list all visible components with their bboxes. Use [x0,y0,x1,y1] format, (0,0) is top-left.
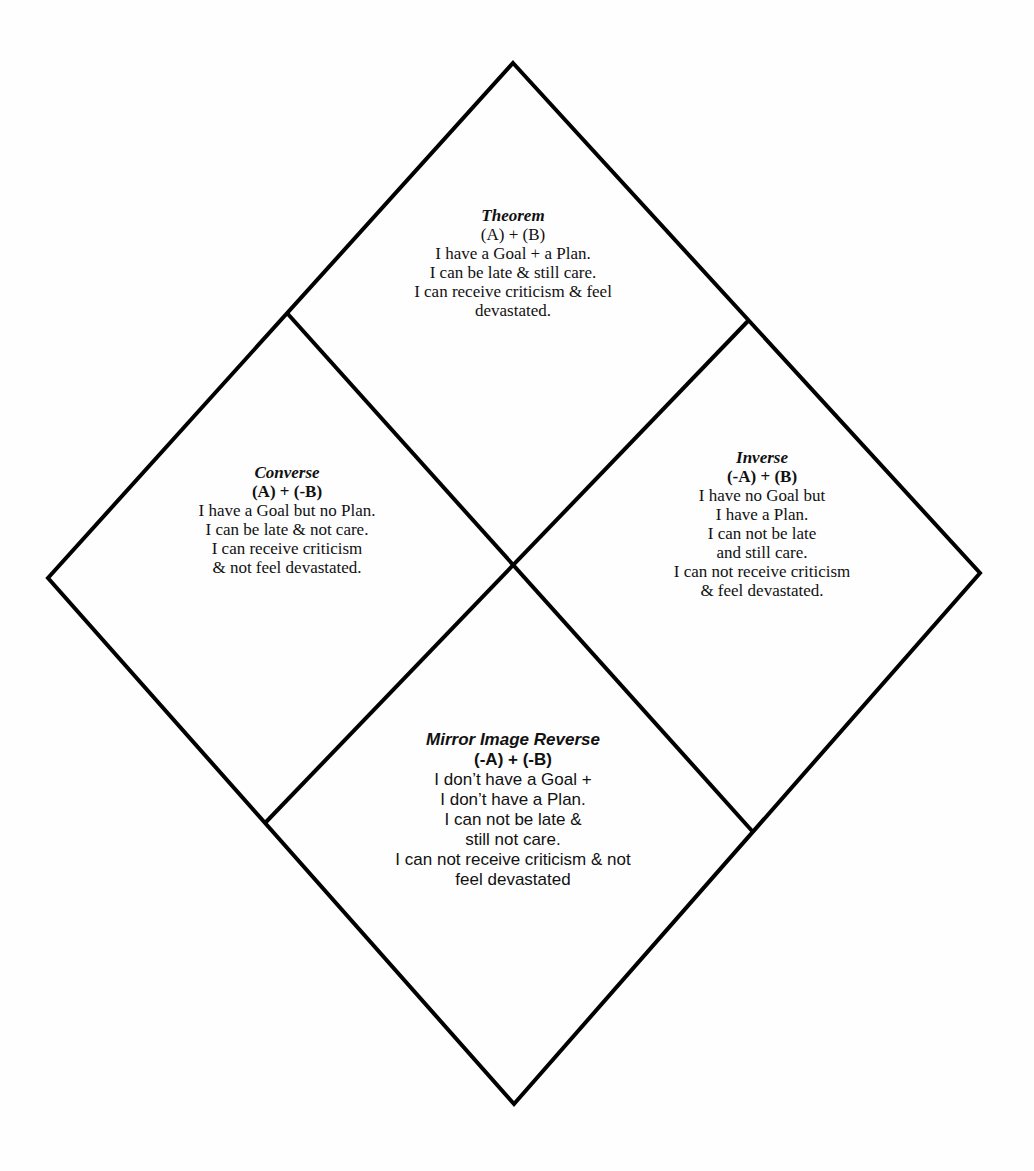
quadrant-line: I can receive criticism [198,539,375,558]
quadrant-line: I can not be late & [395,810,630,830]
quadrant-converse: Converse (A) + (-B) I have a Goal but no… [198,463,375,577]
quadrant-line: I have no Goal but [674,486,851,505]
quadrant-line: I don’t have a Goal + [395,770,630,790]
quadrant-title: Converse [198,463,375,482]
quadrant-inverse: Inverse (-A) + (B) I have no Goal but I … [674,448,851,600]
quadrant-title: Mirror Image Reverse [395,730,630,750]
quadrant-formula: (-A) + (-B) [395,750,630,770]
quadrant-theorem: Theorem (A) + (B) I have a Goal + a Plan… [414,206,612,320]
quadrant-line: devastated. [414,301,612,320]
quadrant-line: I can be late & still care. [414,263,612,282]
quadrant-line: & not feel devastated. [198,558,375,577]
quadrant-title: Inverse [674,448,851,467]
quadrant-title: Theorem [414,206,612,225]
quadrant-line: I can not receive criticism [674,562,851,581]
diamond-diagram [0,0,1034,1171]
quadrant-line: I have a Goal but no Plan. [198,501,375,520]
quadrant-formula: (A) + (B) [414,225,612,244]
quadrant-line: I have a Goal + a Plan. [414,244,612,263]
quadrant-line: I can not receive criticism & not [395,850,630,870]
quadrant-formula: (A) + (-B) [198,482,375,501]
quadrant-line: still not care. [395,830,630,850]
quadrant-line: I don’t have a Plan. [395,790,630,810]
quadrant-line: and still care. [674,543,851,562]
quadrant-line: I have a Plan. [674,505,851,524]
quadrant-formula: (-A) + (B) [674,467,851,486]
quadrant-line: I can receive criticism & feel [414,282,612,301]
quadrant-line: I can be late & not care. [198,520,375,539]
page-canvas: Theorem (A) + (B) I have a Goal + a Plan… [0,0,1034,1171]
quadrant-mirror-image-reverse: Mirror Image Reverse (-A) + (-B) I don’t… [395,730,630,890]
quadrant-line: I can not be late [674,524,851,543]
quadrant-line: feel devastated [395,870,630,890]
quadrant-line: & feel devastated. [674,581,851,600]
